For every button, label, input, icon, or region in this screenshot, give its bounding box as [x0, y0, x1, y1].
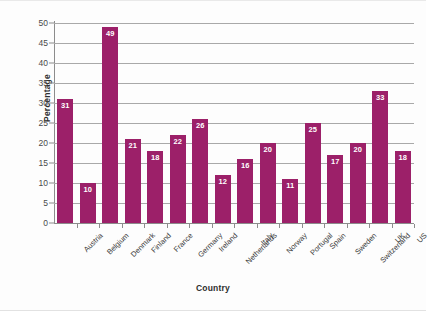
x-tick-mark	[234, 224, 235, 228]
y-tick-mark	[49, 163, 54, 164]
y-tick-mark	[49, 63, 54, 64]
bar-rect[interactable]	[57, 99, 73, 223]
y-tick-mark	[49, 203, 54, 204]
x-tick-mark	[414, 224, 415, 228]
y-axis-tick-labels: 05101520253035404550	[22, 13, 48, 225]
bar-rect[interactable]	[192, 119, 208, 223]
y-tick-mark	[49, 223, 54, 224]
y-tick-mark	[49, 83, 54, 84]
x-tick-mark	[144, 224, 145, 228]
bar-group[interactable]: 49	[99, 23, 122, 223]
bar-group[interactable]: 22	[167, 23, 190, 223]
y-tick-label: 30	[22, 98, 48, 108]
bar-group[interactable]: 16	[234, 23, 257, 223]
bar-value-label: 20	[350, 145, 366, 154]
x-tick-mark	[99, 224, 100, 228]
bar-rect[interactable]	[102, 27, 118, 223]
y-tick-mark	[49, 183, 54, 184]
y-tick-label: 15	[22, 158, 48, 168]
y-tick-label: 20	[22, 138, 48, 148]
bar-group[interactable]: 21	[122, 23, 145, 223]
y-tick-label: 40	[22, 58, 48, 68]
y-tick-mark	[49, 43, 54, 44]
x-tick-mark	[122, 224, 123, 228]
plot-area: 31104921182226121620112517203318	[54, 23, 414, 223]
y-tick-mark	[49, 143, 54, 144]
bar-group[interactable]: 11	[279, 23, 302, 223]
bar-group[interactable]: 26	[189, 23, 212, 223]
bar-value-label: 16	[237, 161, 253, 170]
x-tick-label: Belgium	[105, 231, 131, 257]
y-tick-mark	[49, 123, 54, 124]
bar-rect[interactable]	[350, 143, 366, 223]
y-tick-label: 35	[22, 78, 48, 88]
bar-value-label: 18	[395, 153, 411, 162]
x-axis-title: Country	[0, 283, 426, 293]
bar-rect[interactable]	[170, 135, 186, 223]
x-tick-mark	[167, 224, 168, 228]
bar-value-label: 20	[260, 145, 276, 154]
y-tick-label: 50	[22, 18, 48, 28]
y-tick-label: 25	[22, 118, 48, 128]
x-tick-mark	[324, 224, 325, 228]
y-tick-label: 5	[22, 198, 48, 208]
x-tick-mark	[347, 224, 348, 228]
bar-value-label: 31	[57, 101, 73, 110]
bar-rect[interactable]	[125, 139, 141, 223]
y-tick-label: 45	[22, 38, 48, 48]
y-tick-mark	[49, 23, 54, 24]
bar-value-label: 26	[192, 121, 208, 130]
x-tick-mark	[189, 224, 190, 228]
x-tick-label: Austria	[82, 231, 105, 254]
bars-series: 31104921182226121620112517203318	[54, 23, 414, 223]
x-tick-mark	[279, 224, 280, 228]
x-tick-mark	[302, 224, 303, 228]
bar-value-label: 12	[215, 177, 231, 186]
x-tick-label: Norway	[285, 231, 309, 255]
bar-rect[interactable]	[372, 91, 388, 223]
bar-group[interactable]: 33	[369, 23, 392, 223]
y-tick-mark	[49, 103, 54, 104]
bar-group[interactable]: 25	[302, 23, 325, 223]
bar-group[interactable]: 12	[212, 23, 235, 223]
bar-value-label: 11	[282, 181, 298, 190]
x-tick-label: France	[172, 231, 195, 254]
bar-rect[interactable]	[260, 143, 276, 223]
y-tick-label: 0	[22, 218, 48, 228]
bar-group[interactable]: 18	[144, 23, 167, 223]
bar-group[interactable]: 20	[257, 23, 280, 223]
bar-rect[interactable]	[305, 123, 321, 223]
bar-value-label: 17	[327, 157, 343, 166]
bar-group[interactable]: 17	[324, 23, 347, 223]
bar-value-label: 49	[102, 29, 118, 38]
bar-value-label: 22	[170, 137, 186, 146]
x-tick-mark	[392, 224, 393, 228]
bar-group[interactable]: 10	[77, 23, 100, 223]
y-tick-label: 10	[22, 178, 48, 188]
x-tick-mark	[257, 224, 258, 228]
bar-value-label: 21	[125, 141, 141, 150]
bar-group[interactable]: 18	[392, 23, 415, 223]
x-tick-mark	[369, 224, 370, 228]
bar-value-label: 10	[80, 185, 96, 194]
x-tick-label: US	[415, 231, 429, 245]
x-tick-mark	[212, 224, 213, 228]
bar-value-label: 18	[147, 153, 163, 162]
bar-value-label: 33	[372, 93, 388, 102]
bar-group[interactable]: 20	[347, 23, 370, 223]
bar-value-label: 25	[305, 125, 321, 134]
x-tick-mark	[77, 224, 78, 228]
x-tick-label: Sweden	[353, 231, 379, 257]
bar-group[interactable]: 31	[54, 23, 77, 223]
